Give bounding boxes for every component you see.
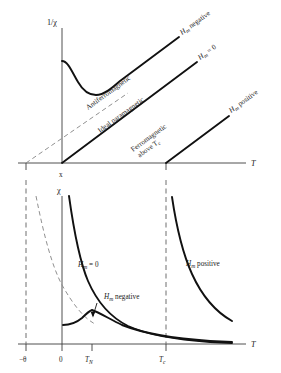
label-hm-zero-lower: Hm = 0	[77, 261, 99, 270]
lower-panel-ylabel: χ	[56, 186, 61, 195]
ferromagnetic-line	[166, 116, 229, 163]
lower-xticklabel-tn: TN	[85, 356, 93, 365]
hm-zero-lower-tail: = 0	[89, 261, 99, 269]
curie-weiss-dashed-branch	[36, 196, 95, 324]
svg-text:Hm negative: Hm negative	[178, 9, 213, 37]
ferromagnetic-hm-positive-curve	[172, 197, 232, 321]
upper-panel-origin-mark: x	[59, 171, 63, 179]
figure-svg: 1/χ T x Antiferromagnetic Ideal paramagn…	[0, 0, 281, 373]
hm-negative-upper-tail: negative	[187, 9, 211, 30]
label-ideal-paramagnetic: Ideal paramagnetic	[96, 96, 145, 135]
upper-panel: 1/χ T x Antiferromagnetic Ideal paramagn…	[18, 9, 260, 179]
hm-negative-arrow-head	[91, 311, 96, 317]
lower-xticklabel-minus-theta: −θ	[19, 356, 27, 364]
upper-panel-xlabel: T	[251, 159, 257, 168]
lower-panel-xlabel: T	[251, 340, 257, 349]
magnetic-susceptibility-figure: 1/χ T x Antiferromagnetic Ideal paramagn…	[0, 0, 281, 373]
tn-sub: N	[88, 359, 93, 365]
lower-xticklabel-tc: Tc	[159, 356, 166, 365]
label-hm-positive-lower: Hm positive	[185, 260, 220, 269]
label-hm-negative-lower: Hm negative	[103, 293, 139, 302]
paramagnetic-hm-zero-curve	[69, 196, 232, 343]
upper-panel-ylabel: 1/χ	[47, 18, 57, 27]
svg-text:Hm = 0: Hm = 0	[196, 43, 219, 63]
hm-positive-upper-tail: positive	[236, 88, 259, 108]
label-ferromagnetic-upper: Ferromagnetic above Tc	[129, 123, 173, 161]
lower-xticklabel-zero: 0	[59, 356, 63, 364]
tc-sub: c	[163, 359, 166, 365]
label-hm-zero-upper: Hm = 0	[196, 43, 219, 63]
antiferromagnetic-hm-negative-curve	[63, 310, 232, 342]
label-hm-negative-upper: Hm negative	[178, 9, 213, 37]
lower-panel: χ T −θ 0 TN Tc Hm = 0 Hm negative	[18, 180, 257, 365]
svg-text:Hm positive: Hm positive	[227, 88, 260, 115]
hm-negative-lower-tail: negative	[115, 293, 139, 301]
label-hm-positive-upper: Hm positive	[227, 88, 260, 115]
hm-positive-lower-tail: positive	[197, 260, 220, 268]
